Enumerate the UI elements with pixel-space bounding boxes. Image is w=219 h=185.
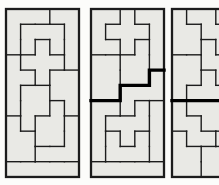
panel-background (172, 9, 219, 177)
pentomino-panel-3 (172, 9, 219, 177)
pentomino-panel-1 (6, 9, 79, 177)
pentomino-panel-2 (91, 9, 164, 177)
panel-background (91, 9, 164, 177)
panel-background (6, 9, 79, 177)
figure-canvas (0, 0, 219, 185)
pentomino-figure (0, 0, 219, 185)
